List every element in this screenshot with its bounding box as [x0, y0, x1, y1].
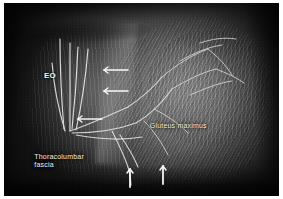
pointer-arrow-bottom-2	[160, 166, 166, 184]
pointer-arrow-bottom-1	[127, 169, 133, 187]
annotation-overlay	[4, 3, 279, 196]
vessel-branches-right	[144, 38, 244, 155]
pointer-arrow-upper-1	[104, 67, 128, 73]
nerve-branches-left	[52, 39, 88, 131]
nerve-branches-center	[70, 77, 172, 139]
dissection-photograph: EO Thoracolumbar fascia Gluteus maximus	[4, 3, 279, 196]
pointer-arrow-mid-3	[78, 116, 102, 122]
anatomy-figure: EO Thoracolumbar fascia Gluteus maximus	[0, 0, 283, 199]
pointer-arrow-upper-2	[104, 88, 128, 94]
